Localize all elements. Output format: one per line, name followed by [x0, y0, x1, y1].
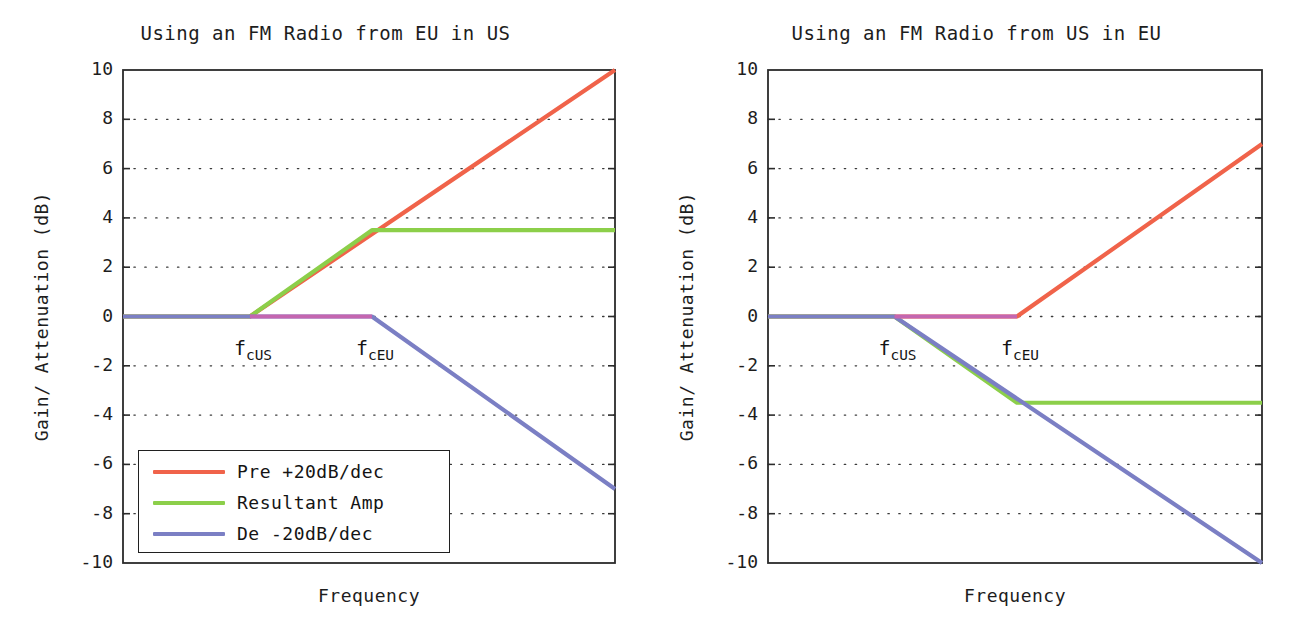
y-tick-label: -4	[61, 403, 113, 424]
annotation-subscript: cEU	[368, 347, 394, 363]
annotation-base: f	[356, 336, 368, 360]
y-tick-label: -8	[706, 502, 758, 523]
f-cus-label: fcUS	[878, 336, 916, 363]
legend-label: Pre +20dB/dec	[237, 461, 384, 482]
f-ceu-label: fcEU	[356, 336, 394, 363]
y-tick-label: 0	[61, 305, 113, 326]
y-tick-label: 10	[61, 58, 113, 79]
y-tick-label: 2	[706, 255, 758, 276]
legend-item[interactable]: Pre +20dB/dec	[139, 456, 449, 487]
y-tick-label: -4	[706, 403, 758, 424]
y-tick-label: 6	[706, 157, 758, 178]
legend-color-swatch	[153, 532, 225, 536]
chart-panel-us-radio-in-eu: Using an FM Radio from US in EU Gain/ At…	[651, 0, 1302, 633]
series-line-0	[768, 144, 1262, 317]
legend-item[interactable]: De -20dB/dec	[139, 518, 449, 549]
series-line-0	[123, 70, 615, 317]
f-cus-label: fcUS	[234, 336, 272, 363]
annotation-subscript: cUS	[891, 347, 917, 363]
y-tick-label: 8	[706, 107, 758, 128]
legend-item[interactable]: Resultant Amp	[139, 487, 449, 518]
y-tick-label: 6	[61, 157, 113, 178]
annotation-base: f	[234, 336, 246, 360]
y-tick-label: -6	[61, 452, 113, 473]
legend-color-swatch	[153, 501, 225, 505]
legend-label: De -20dB/dec	[237, 523, 373, 544]
series-line-1	[123, 230, 615, 316]
y-tick-label: -2	[706, 354, 758, 375]
y-tick-label: 10	[706, 58, 758, 79]
figure-canvas: Using an FM Radio from EU in US Gain/ At…	[0, 0, 1302, 633]
y-tick-label: 4	[61, 206, 113, 227]
y-tick-label: -10	[706, 551, 758, 572]
legend-label: Resultant Amp	[237, 492, 384, 513]
y-tick-label: -6	[706, 452, 758, 473]
y-tick-label: 4	[706, 206, 758, 227]
annotation-base: f	[878, 336, 890, 360]
annotation-subscript: cUS	[246, 347, 272, 363]
legend: Pre +20dB/decResultant AmpDe -20dB/dec	[138, 450, 450, 553]
y-tick-label: 2	[61, 255, 113, 276]
y-tick-label: 8	[61, 107, 113, 128]
y-tick-label: -2	[61, 354, 113, 375]
y-tick-label: -10	[61, 551, 113, 572]
y-tick-label: -8	[61, 502, 113, 523]
y-tick-label: 0	[706, 305, 758, 326]
legend-color-swatch	[153, 470, 225, 474]
f-ceu-label: fcEU	[1001, 336, 1039, 363]
annotation-base: f	[1001, 336, 1013, 360]
annotation-subscript: cEU	[1013, 347, 1039, 363]
